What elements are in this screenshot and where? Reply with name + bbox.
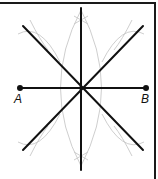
label-b: B	[141, 92, 149, 106]
construction-diagram	[0, 0, 158, 179]
center-point	[79, 86, 83, 90]
point-b	[143, 85, 149, 91]
label-a: A	[14, 92, 22, 106]
point-a	[17, 85, 23, 91]
